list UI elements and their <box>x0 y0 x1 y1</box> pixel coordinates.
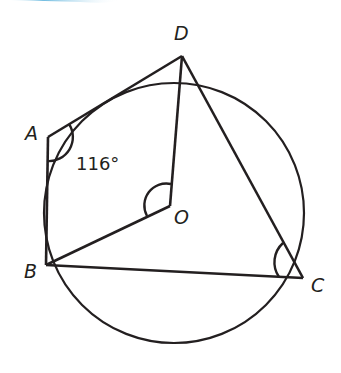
label-c: C <box>311 274 325 296</box>
circle-diagram: D A B C O 116° <box>0 0 341 373</box>
label-d: D <box>174 22 189 44</box>
label-o: O <box>174 206 189 228</box>
segment-cd <box>182 56 303 278</box>
angle-label-a: 116° <box>76 153 119 174</box>
angle-arc-c <box>274 243 283 277</box>
segment-ad <box>48 56 182 137</box>
segment-bc <box>46 265 303 278</box>
label-b: B <box>24 260 37 282</box>
segment-do <box>170 56 182 206</box>
label-a: A <box>23 122 38 144</box>
segment-bo <box>46 206 170 265</box>
